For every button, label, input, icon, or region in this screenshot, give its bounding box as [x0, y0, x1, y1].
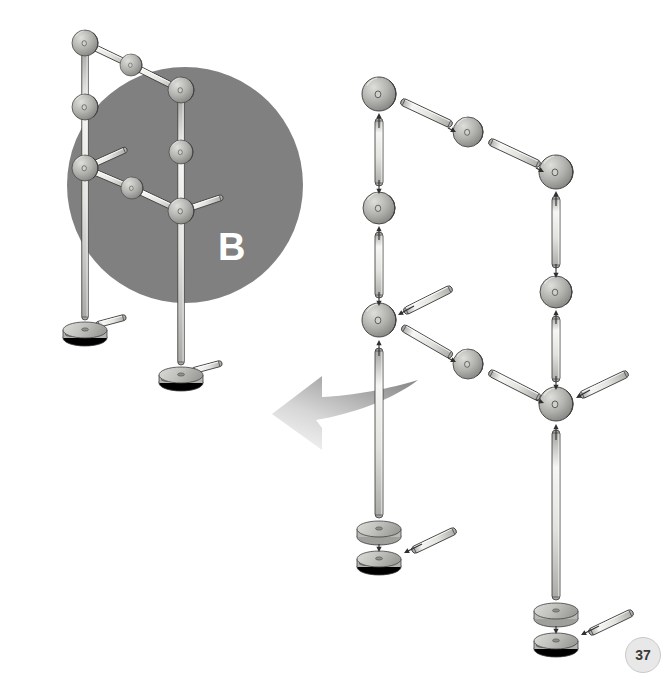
exploded-connector [539, 387, 573, 421]
curved-transfer-arrow-shape [272, 376, 418, 450]
exploded-vertical-rod [375, 348, 383, 518]
exploded-diagonal-rod [400, 324, 454, 359]
exploded-vertical-rod [375, 232, 383, 298]
rod-body [487, 369, 541, 402]
exploded-vertical-rod [552, 196, 560, 268]
exploded-connector [540, 276, 572, 308]
rod-body [400, 324, 454, 359]
assembled-connector [72, 155, 98, 181]
arrow-head [580, 630, 587, 637]
assembled-connector [72, 94, 98, 120]
assembled-connector [120, 54, 142, 76]
exploded-vertical-rod [552, 430, 560, 600]
rod-body [399, 98, 453, 129]
exploded-base-ridged [534, 633, 578, 657]
rod-highlight [492, 140, 538, 162]
exploded-diagonal-rod [487, 369, 541, 402]
exploded-connector [363, 192, 395, 224]
curved-transfer-arrow [272, 376, 418, 450]
exploded-diagonal-rod [410, 527, 457, 555]
exploded-diagonal-rod [578, 370, 629, 400]
arrow-head [376, 113, 381, 118]
page-number-badge: 37 [625, 637, 661, 673]
arrow-head [553, 191, 558, 196]
rod-highlight [492, 371, 539, 395]
step-badge-label: B [218, 228, 245, 266]
exploded-diagonal-rod [402, 285, 453, 316]
assembled-base [159, 367, 203, 391]
rod-highlight [404, 100, 450, 122]
page-root: B 37 [0, 0, 667, 679]
exploded-vertical-rod [375, 118, 383, 186]
exploded-base-plain [534, 603, 578, 627]
exploded-base-ridged [357, 551, 401, 575]
assembled-connector [72, 30, 98, 56]
exploded-diagonal-rod [487, 138, 541, 169]
arrow-head [397, 310, 404, 317]
exploded-connector [362, 77, 396, 111]
arrow-head [376, 340, 381, 345]
rod-body [578, 370, 629, 400]
rod-body [487, 138, 541, 169]
exploded-vertical-rod [552, 316, 560, 382]
arrow-head [376, 226, 381, 231]
rod-highlight [405, 326, 451, 352]
assembly-illustration [0, 0, 667, 679]
assembled-connector [121, 177, 143, 199]
arrow-head [553, 310, 558, 315]
arrow-head [403, 548, 410, 555]
exploded-connector [539, 155, 573, 189]
exploded-connector [362, 303, 396, 337]
assembled-post [178, 90, 185, 365]
assembled-post [82, 43, 89, 320]
assembled-connector [168, 77, 194, 103]
assembled-base [63, 322, 107, 346]
exploded-connector [453, 117, 483, 147]
assembled-connector [168, 198, 194, 224]
rod-body [402, 285, 453, 316]
rod-body [587, 609, 634, 637]
rod-body [410, 527, 457, 555]
exploded-diagonal-rod [587, 609, 634, 637]
exploded-base-plain [357, 521, 401, 545]
exploded-connector [453, 349, 483, 379]
exploded-diagonal-rod [399, 98, 453, 129]
assembled-connector [169, 140, 193, 164]
arrow-head [553, 424, 558, 429]
exploded-assembly-view [357, 77, 635, 657]
